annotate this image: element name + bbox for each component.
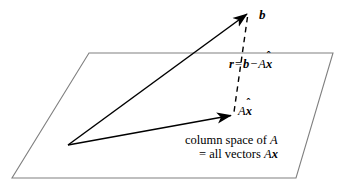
residual-minus-sign: − xyxy=(249,57,258,71)
projection-x-hat-accent: ˆ xyxy=(247,97,251,110)
least-squares-projection-figure: b r=b−Aˆx Aˆx column space of A = all ve… xyxy=(0,0,346,189)
label-projection-a-xhat: Aˆx xyxy=(238,104,252,118)
caption-line-1-matrix-a: A xyxy=(270,133,278,147)
column-space-plane xyxy=(12,53,333,178)
label-vector-b: b xyxy=(259,8,266,23)
caption-line-2-matrix-a: A xyxy=(264,147,272,161)
figure-canvas xyxy=(0,0,346,189)
label-residual-equation: r=b−Aˆx xyxy=(229,57,272,71)
caption-line-2: = all vectors Ax xyxy=(185,147,278,161)
projection-matrix-a: A xyxy=(238,104,246,118)
caption-line-2-prefix: = all vectors xyxy=(199,147,264,161)
caption-line-2-vector-x: x xyxy=(272,147,278,161)
residual-x-hat: ˆx xyxy=(266,57,272,71)
caption-line-1: column space of A xyxy=(185,133,278,147)
residual-equals-sign: = xyxy=(234,57,243,71)
residual-matrix-a: A xyxy=(258,57,266,71)
residual-x-hat-accent: ˆ xyxy=(267,50,271,63)
projection-x-hat: ˆx xyxy=(246,104,252,118)
caption-column-space: column space of A = all vectors Ax xyxy=(185,133,278,161)
label-vector-b-text: b xyxy=(259,7,266,22)
vector-b-arrow xyxy=(68,14,247,145)
caption-line-1-prefix: column space of xyxy=(185,133,270,147)
